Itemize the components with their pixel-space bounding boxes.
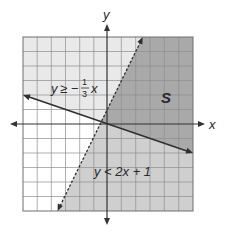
y-axis-label: y [102, 7, 111, 22]
x-axis-left-arrow-icon [10, 121, 17, 127]
label-fraction-numerator: 1 [82, 77, 87, 87]
dashed-inequality-label: y < 2x + 1 [93, 164, 151, 179]
label-ge-sign: ≥ [60, 81, 67, 96]
x-axis-right-arrow-icon [198, 121, 205, 127]
label-fraction-denominator: 3 [82, 89, 87, 99]
label-minus-sign: − [71, 81, 79, 96]
y-axis-up-arrow-icon [104, 24, 110, 31]
inequality-graph: y x y ≥ − 1 3 x y < 2x + 1 S [0, 0, 227, 235]
label-x: x [90, 81, 98, 96]
x-axis-label: x [208, 117, 216, 132]
solution-region-label: S [161, 89, 171, 106]
y-axis-down-arrow-icon [104, 218, 110, 225]
solid-inequality-label: y ≥ − 1 3 x [50, 77, 98, 99]
